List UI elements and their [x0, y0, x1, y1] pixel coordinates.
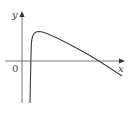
x-axis-label: x — [118, 63, 124, 74]
function-curve — [30, 32, 122, 104]
y-axis-arrow-icon — [20, 11, 25, 17]
origin-label: 0 — [12, 63, 18, 74]
function-graph: y x 0 — [0, 0, 133, 113]
y-axis-label: y — [11, 9, 18, 20]
